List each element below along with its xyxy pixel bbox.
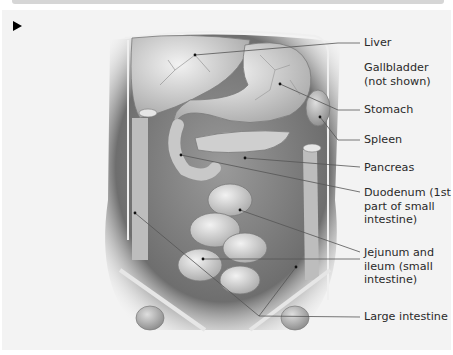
label-stomach: Stomach — [364, 103, 413, 117]
digestive-system-illustration — [0, 0, 453, 355]
spleen — [306, 90, 330, 126]
label-spleen: Spleen — [364, 133, 402, 147]
label-gallbladder: Gallbladder (not shown) — [364, 61, 431, 88]
label-pancreas: Pancreas — [364, 161, 414, 175]
descending-colon — [310, 150, 312, 280]
label-duodenum: Duodenum (1st part of small intestine) — [364, 186, 451, 227]
label-jejunum-ileum: Jejunum and ileum (small intestine) — [364, 246, 434, 287]
label-large-intestine: Large intestine — [364, 310, 448, 324]
label-liver: Liver — [364, 36, 391, 50]
